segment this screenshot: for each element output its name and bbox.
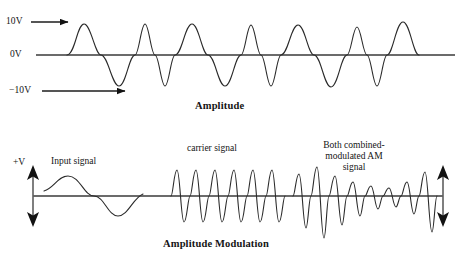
label-combined-line2: modulated AM (311, 151, 397, 162)
label-0v: 0V (10, 49, 22, 60)
label-minus-10v: −10V (9, 85, 31, 96)
label-plus-v: +V (13, 157, 25, 168)
figure-canvas (0, 0, 476, 264)
am-modulated-signal-waveform (293, 167, 437, 238)
label-input-signal: Input signal (51, 156, 96, 167)
label-carrier-signal: carrier signal (187, 143, 237, 154)
label-combined-line1: Both combined- (311, 140, 397, 151)
top-panel-group (31, 22, 455, 91)
bottom-panel-group (27, 165, 449, 238)
am-modulation-figure: 10V 0V −10V Amplitude +V Input signal ca… (0, 0, 476, 264)
label-combined-line3: signal (311, 162, 397, 173)
bottom-caption-amplitude-modulation: Amplitude Modulation (163, 238, 269, 250)
top-caption-amplitude: Amplitude (195, 100, 244, 112)
label-10v: 10V (6, 16, 23, 27)
